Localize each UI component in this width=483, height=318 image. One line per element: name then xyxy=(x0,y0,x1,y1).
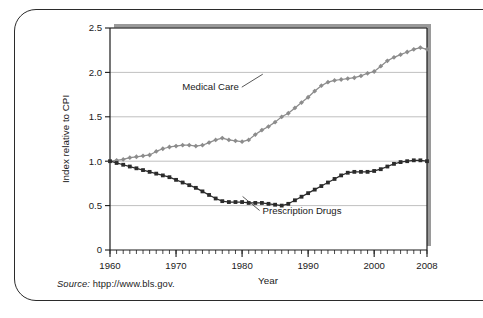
source-caption: Source: htpp://www.bls.gov. xyxy=(57,278,175,289)
data-point xyxy=(399,160,403,164)
data-point xyxy=(418,158,422,162)
data-point xyxy=(227,200,231,204)
data-point xyxy=(352,170,356,174)
plot-background xyxy=(110,28,427,250)
data-point xyxy=(339,174,343,178)
data-point xyxy=(201,189,205,193)
series-label: Medical Care xyxy=(182,81,239,92)
data-point xyxy=(260,201,264,205)
data-point xyxy=(141,168,145,172)
data-point xyxy=(366,170,370,174)
data-point xyxy=(187,183,191,187)
data-point xyxy=(300,195,304,199)
data-point xyxy=(372,169,376,173)
data-point xyxy=(306,191,310,195)
data-point xyxy=(240,200,244,204)
data-point xyxy=(392,162,396,166)
data-point xyxy=(253,201,257,205)
x-tick-label: 2000 xyxy=(363,260,384,271)
data-point xyxy=(385,165,389,169)
data-point xyxy=(333,177,337,181)
data-point xyxy=(214,197,218,201)
y-tick-label: 0.5 xyxy=(89,200,102,211)
data-point xyxy=(326,181,330,185)
x-tick-label: 1980 xyxy=(231,260,252,271)
y-axis-title: Index relative to CPI xyxy=(60,95,71,183)
data-point xyxy=(234,200,238,204)
data-point xyxy=(115,161,119,165)
data-point xyxy=(319,184,323,188)
chart-canvas: 00.51.01.52.02.5 19601970198019902000200… xyxy=(0,0,483,318)
series-label: Prescription Drugs xyxy=(263,205,342,216)
y-tick-label: 1.5 xyxy=(89,111,102,122)
data-point xyxy=(168,175,172,179)
data-point xyxy=(174,178,178,182)
data-point xyxy=(207,193,211,197)
x-tick-label: 1960 xyxy=(99,260,120,271)
data-point xyxy=(220,199,224,203)
data-point xyxy=(181,181,185,185)
x-axis-title: Year xyxy=(258,275,279,286)
data-point xyxy=(313,188,317,192)
data-point xyxy=(405,159,409,163)
data-point xyxy=(379,167,383,171)
data-point xyxy=(121,163,125,167)
data-point xyxy=(135,166,139,170)
data-point xyxy=(359,170,363,174)
data-point xyxy=(108,159,112,163)
y-tick-label: 1.0 xyxy=(89,156,102,167)
source-prefix: Source: xyxy=(57,278,90,289)
data-point xyxy=(128,165,132,169)
data-point xyxy=(293,198,297,202)
data-point xyxy=(154,172,158,176)
data-point xyxy=(161,174,165,178)
y-tick-label: 0 xyxy=(97,244,102,255)
y-tick-label: 2.5 xyxy=(89,22,102,33)
data-point xyxy=(194,186,198,190)
x-tick-label: 1970 xyxy=(165,260,186,271)
source-url: htpp://www.bls.gov. xyxy=(93,278,175,289)
data-point xyxy=(346,171,350,175)
x-tick-label: 1990 xyxy=(297,260,318,271)
y-tick-label: 2.0 xyxy=(89,67,102,78)
data-point xyxy=(425,159,429,163)
y-axis-ticks: 00.51.01.52.02.5 xyxy=(89,22,110,255)
x-tick-label: 2008 xyxy=(416,260,437,271)
data-point xyxy=(412,158,416,162)
data-point xyxy=(148,170,152,174)
chart-figure: 00.51.01.52.02.5 19601970198019902000200… xyxy=(0,0,483,318)
x-axis-minor-ticks xyxy=(110,250,427,254)
